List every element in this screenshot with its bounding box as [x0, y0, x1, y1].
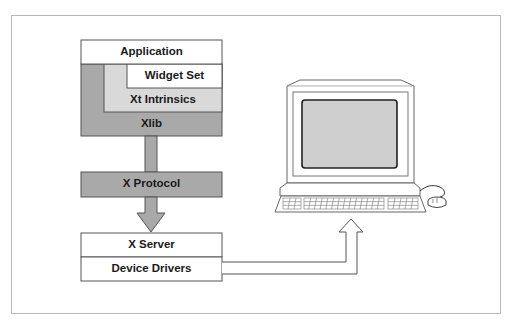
mouse-cord: [420, 186, 445, 197]
xt-intrinsics-label: Xt Intrinsics: [104, 93, 222, 105]
diagram-canvas: [0, 0, 513, 326]
widget-set-label: Widget Set: [127, 69, 222, 81]
computer-base: [280, 183, 420, 196]
workstation-computer-icon: [275, 80, 446, 212]
x-protocol-label: X Protocol: [81, 177, 222, 189]
drivers-to-hardware-arrow: [222, 219, 363, 274]
mouse-icon: [428, 197, 446, 208]
xlib-to-protocol-stem: [145, 136, 157, 172]
protocol-to-server-arrow: [137, 197, 165, 232]
device-drivers-label: Device Drivers: [81, 262, 222, 274]
monitor-screen: [302, 100, 397, 168]
xlib-label: Xlib: [81, 117, 222, 129]
x-server-label: X Server: [81, 238, 222, 250]
application-label: Application: [81, 45, 222, 57]
